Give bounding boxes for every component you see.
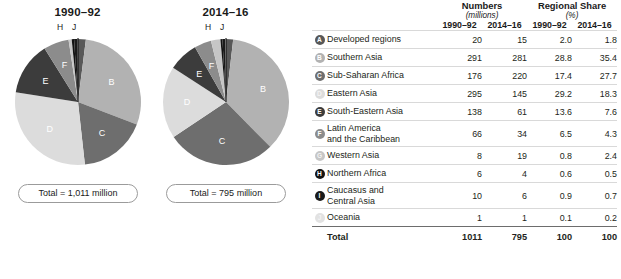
pie-slice-label-b: B — [260, 84, 266, 94]
row-value-share-2014-16: 35.4 — [572, 49, 617, 67]
leader-label-h: H — [205, 22, 211, 32]
table-body: ADeveloped regions20152.01.8BSouthern As… — [312, 31, 617, 248]
row-value-numbers-2014-16: 145 — [482, 85, 527, 103]
legend-badge-d: D — [315, 89, 325, 99]
row-label: Northern Africa — [327, 165, 437, 183]
pie-slice-label-b: B — [108, 77, 114, 87]
pie-slice-label-e: E — [42, 76, 48, 86]
row-value-share-1990-92: 0.6 — [527, 165, 572, 183]
row-label: Southern Asia — [327, 49, 437, 67]
row-value-numbers-1990-92: 10 — [437, 183, 482, 209]
legend-badge-h: H — [315, 169, 325, 179]
row-badge-cell: B — [312, 49, 327, 67]
row-value-share-1990-92: 17.4 — [527, 67, 572, 85]
group-subheader-millions: (millions) — [437, 11, 527, 20]
row-value-share-2014-16: 1.8 — [572, 31, 617, 49]
row-value-numbers-1990-92: 176 — [437, 67, 482, 85]
row-label: Caucasus andCentral Asia — [327, 183, 437, 209]
pie-slice-label-c: C — [219, 136, 226, 146]
row-label: Eastern Asia — [327, 85, 437, 103]
row-value-share-2014-16: 0.5 — [572, 165, 617, 183]
pie-slice-label-f: F — [62, 60, 68, 70]
row-value-numbers-1990-92: 20 — [437, 31, 482, 49]
row-value-share-1990-92: 6.5 — [527, 121, 572, 147]
row-badge-cell: C — [312, 67, 327, 85]
total-numbers-1990-92: 1011 — [437, 227, 482, 248]
legend-badge-g: G — [315, 151, 325, 161]
row-label: Sub-Saharan Africa — [327, 67, 437, 85]
legend-badge-a: A — [315, 35, 325, 45]
leader-label-group: H J — [0, 22, 155, 36]
row-value-numbers-2014-16: 34 — [482, 121, 527, 147]
row-value-numbers-2014-16: 6 — [482, 183, 527, 209]
pie-slice-label-d: D — [184, 97, 191, 107]
legend-badge-b: B — [315, 53, 325, 63]
row-badge-cell: F — [312, 121, 327, 147]
row-value-share-1990-92: 2.0 — [527, 31, 572, 49]
total-share-1990-92: 100 — [527, 227, 572, 248]
row-badge-cell: I — [312, 183, 327, 209]
row-label: South-Eastern Asia — [327, 103, 437, 121]
row-value-numbers-1990-92: 66 — [437, 121, 482, 147]
row-value-share-2014-16: 4.3 — [572, 121, 617, 147]
leader-label-h: H — [57, 22, 63, 32]
row-badge-cell: H — [312, 165, 327, 183]
row-value-numbers-1990-92: 8 — [437, 147, 482, 165]
row-value-numbers-2014-16: 1 — [482, 209, 527, 227]
row-value-share-2014-16: 7.6 — [572, 103, 617, 121]
pie-chart-panel: 1990–92 H J ABCDEFGI Total = 1,011 milli… — [0, 0, 310, 279]
row-value-share-2014-16: 2.4 — [572, 147, 617, 165]
row-value-numbers-2014-16: 15 — [482, 31, 527, 49]
row-label: Oceania — [327, 209, 437, 227]
row-value-share-1990-92: 28.8 — [527, 49, 572, 67]
col-header-share-2014-16: 2014–16 — [572, 20, 617, 31]
table-row: FLatin Americaand the Caribbean66346.54.… — [312, 121, 617, 147]
table-row: CSub-Saharan Africa17622017.427.7 — [312, 67, 617, 85]
pie-svg-1990-92: ABCDEFGI — [14, 38, 142, 166]
pie-chart-2014-16: 2014–16 H J ABCDEFGI Total = 795 million — [148, 0, 303, 279]
data-table: Numbers Regional Share (millions) (%) 19… — [312, 0, 617, 247]
pie-chart-1990-92: 1990–92 H J ABCDEFGI Total = 1,011 milli… — [0, 0, 155, 279]
legend-badge-e: E — [315, 107, 325, 117]
row-value-numbers-1990-92: 6 — [437, 165, 482, 183]
group-header-regional-share: Regional Share — [527, 0, 617, 11]
figure-root: 1990–92 H J ABCDEFGI Total = 1,011 milli… — [0, 0, 621, 279]
row-value-share-2014-16: 0.2 — [572, 209, 617, 227]
row-value-numbers-1990-92: 295 — [437, 85, 482, 103]
table-row: HNorthern Africa640.60.5 — [312, 165, 617, 183]
row-label: Developed regions — [327, 31, 437, 49]
row-value-numbers-2014-16: 61 — [482, 103, 527, 121]
row-badge-cell: E — [312, 103, 327, 121]
pie-title: 1990–92 — [0, 6, 155, 18]
col-header-numbers-2014-16: 2014–16 — [482, 20, 527, 31]
leader-label-j: J — [220, 22, 224, 32]
row-value-numbers-2014-16: 281 — [482, 49, 527, 67]
pie-slice-label-d: D — [47, 124, 54, 134]
group-subheader-percent: (%) — [527, 11, 617, 20]
total-label: Total — [327, 227, 437, 248]
row-value-share-2014-16: 27.7 — [572, 67, 617, 85]
group-header-numbers: Numbers — [437, 0, 527, 11]
row-badge-cell: A — [312, 31, 327, 49]
total-badge-cell — [312, 227, 327, 248]
legend-badge-i: I — [315, 191, 325, 201]
row-badge-cell: G — [312, 147, 327, 165]
pie-slice-label-c: C — [99, 128, 106, 138]
pie-svg-2014-16: ABCDEFGI — [162, 38, 290, 166]
leader-label-j: J — [72, 22, 76, 32]
total-share-2014-16: 100 — [572, 227, 617, 248]
row-value-numbers-2014-16: 19 — [482, 147, 527, 165]
total-pill-2014-16: Total = 795 million — [166, 184, 286, 203]
table-head: Numbers Regional Share (millions) (%) 19… — [312, 0, 617, 31]
col-header-numbers-1990-92: 1990–92 — [437, 20, 482, 31]
year-header-row: 1990–92 2014–16 1990–92 2014–16 — [312, 20, 617, 31]
row-value-share-1990-92: 13.6 — [527, 103, 572, 121]
total-pill-1990-92: Total = 1,011 million — [18, 184, 138, 203]
row-badge-cell: J — [312, 209, 327, 227]
row-value-numbers-1990-92: 138 — [437, 103, 482, 121]
row-value-numbers-1990-92: 291 — [437, 49, 482, 67]
table-row: DEastern Asia29514529.218.3 — [312, 85, 617, 103]
row-value-share-2014-16: 18.3 — [572, 85, 617, 103]
table-row: JOceania110.10.2 — [312, 209, 617, 227]
legend-badge-f: F — [315, 129, 325, 139]
